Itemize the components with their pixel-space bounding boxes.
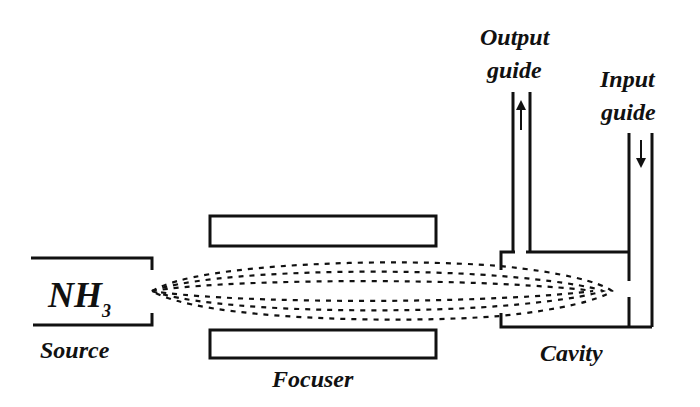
molecular-beam bbox=[152, 262, 612, 319]
focuser-lower-plate bbox=[210, 330, 436, 358]
cavity-label: Cavity bbox=[540, 340, 603, 366]
cavity bbox=[501, 252, 652, 327]
focuser-upper-plate bbox=[210, 216, 436, 246]
focuser-label: Focuser bbox=[271, 366, 354, 392]
input-arrow-icon bbox=[636, 140, 646, 168]
source-label: Source bbox=[40, 337, 110, 363]
input-guide-label-line2: guide bbox=[600, 99, 656, 125]
maser-diagram: NH3 Source Focuser Cavity Output guide I… bbox=[0, 0, 700, 407]
output-arrow-icon bbox=[516, 100, 526, 130]
output-guide-label-line1: Output bbox=[480, 24, 551, 50]
input-guide-label-line1: Input bbox=[599, 66, 656, 92]
output-guide-label-line2: guide bbox=[486, 57, 542, 83]
source-formula-label: NH3 bbox=[47, 275, 111, 321]
